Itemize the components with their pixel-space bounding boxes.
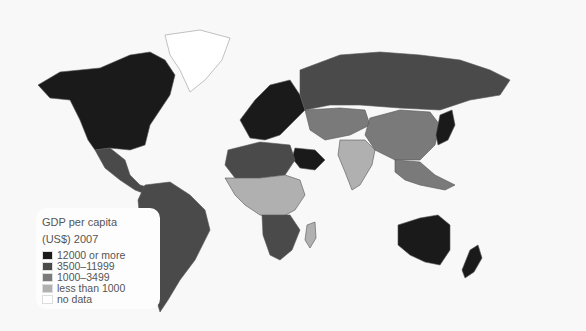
legend-title-2: (US$) 2007 xyxy=(42,231,154,248)
legend-label: no data xyxy=(57,294,92,305)
region-saudi-arabia xyxy=(292,148,325,170)
region-southern-africa xyxy=(262,215,300,260)
region-north-america-usa-canada xyxy=(38,52,175,150)
region-sub-saharan-africa xyxy=(225,175,305,218)
region-greenland xyxy=(165,30,230,92)
region-russia xyxy=(300,52,510,110)
legend-swatch xyxy=(42,251,53,260)
region-madagascar xyxy=(305,222,316,248)
region-new-zealand xyxy=(462,245,482,278)
region-australia xyxy=(398,215,450,265)
region-western-europe xyxy=(240,80,305,140)
region-southeast-asia xyxy=(395,160,455,190)
legend-item-nodata: no data xyxy=(42,294,154,305)
legend-swatch xyxy=(42,295,53,304)
map-legend: GDP per capita (US$) 2007 12000 or more3… xyxy=(36,208,160,309)
region-central-asia xyxy=(305,108,370,140)
legend-swatch xyxy=(42,273,53,282)
legend-swatch xyxy=(42,284,53,293)
region-india xyxy=(338,140,375,190)
region-north-africa xyxy=(225,142,295,178)
legend-swatch xyxy=(42,262,53,271)
region-japan xyxy=(436,110,455,145)
legend-title-1: GDP per capita xyxy=(42,214,154,231)
region-mexico-central-america xyxy=(95,148,150,195)
region-china xyxy=(365,110,440,160)
